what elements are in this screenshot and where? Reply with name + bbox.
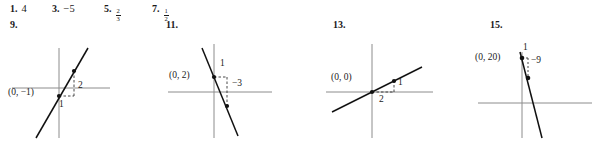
point-label-13: (0, 0) xyxy=(331,72,352,82)
fraction-numerator: 2 xyxy=(116,8,121,15)
plotted-line xyxy=(36,48,88,138)
second-point xyxy=(392,79,396,83)
answer-number: 1. xyxy=(10,3,18,14)
intercept-point xyxy=(370,90,374,94)
answer-number: 7. xyxy=(152,3,160,14)
rise-label-11: −3 xyxy=(232,78,242,88)
answer-value: 4 xyxy=(22,3,27,14)
second-point xyxy=(225,104,229,108)
graph-problem-9: (0, −1) 1 2 xyxy=(0,30,150,141)
rise-label-15: −9 xyxy=(531,55,541,65)
run-label-9: 1 xyxy=(59,99,64,109)
graph-problem-15: (0, 20) 1 −9 xyxy=(470,30,592,141)
answer-item-3: 3. −5 xyxy=(52,3,75,14)
intercept-point xyxy=(212,75,216,79)
second-point xyxy=(526,76,531,81)
problem-number-15: 15. xyxy=(490,19,503,30)
intercept-point xyxy=(57,94,61,98)
point-label-15: (0, 20) xyxy=(475,52,500,62)
point-label-9: (0, −1) xyxy=(8,87,34,97)
rise-label-13: 1 xyxy=(398,77,403,87)
answer-number: 5. xyxy=(104,3,112,14)
answer-item-5: 5. 2 3 xyxy=(104,3,121,22)
intercept-point xyxy=(520,56,525,61)
graph-problem-11: (0, 2) 1 −3 xyxy=(160,30,310,141)
fraction-numerator: 1 xyxy=(164,8,169,15)
run-label-11: 1 xyxy=(220,58,225,68)
problem-number-13: 13. xyxy=(333,19,346,30)
graph-13-svg xyxy=(318,30,468,141)
fraction-denominator: 3 xyxy=(116,15,121,23)
answer-row: 1. 4 3. −5 5. 2 3 7. 1 2 xyxy=(0,3,592,19)
second-point xyxy=(72,69,76,73)
run-label-13: 2 xyxy=(379,94,384,104)
answer-number: 3. xyxy=(52,3,60,14)
graph-9-svg xyxy=(0,30,150,141)
point-label-11: (0, 2) xyxy=(169,70,190,80)
rise-label-9: 2 xyxy=(78,80,83,90)
problem-number-9: 9. xyxy=(10,19,18,30)
answer-item-1: 1. 4 xyxy=(10,3,27,14)
problem-number-11: 11. xyxy=(166,19,178,30)
answer-value: −5 xyxy=(64,3,75,14)
answer-value-fraction: 2 3 xyxy=(116,8,121,23)
graph-problem-13: (0, 0) 2 1 xyxy=(318,30,468,141)
run-label-15: 1 xyxy=(523,42,528,52)
graph-15-svg xyxy=(470,30,592,141)
